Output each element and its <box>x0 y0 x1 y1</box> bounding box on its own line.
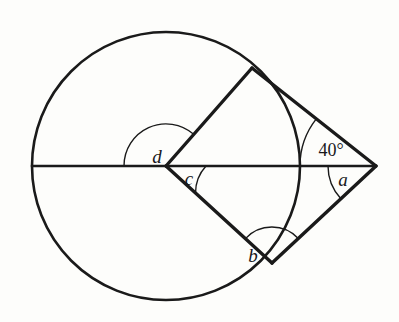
upper-tangent-line <box>252 68 376 166</box>
arc-angle-40-degrees <box>300 119 316 166</box>
angle-label-b: b <box>248 246 258 265</box>
angle-label-c: c <box>185 169 193 188</box>
angle-measure-40-degrees: 40° <box>318 141 343 159</box>
geometry-canvas <box>0 0 399 322</box>
angle-label-a: a <box>338 170 348 189</box>
radius-to-upper-tangent <box>166 68 252 166</box>
arc-angle-b <box>245 227 298 239</box>
lower-tangent-line <box>272 166 376 263</box>
arc-angle-c <box>196 166 207 193</box>
geometry-diagram: d c b a 40° <box>0 0 399 322</box>
angle-label-d: d <box>152 147 162 166</box>
